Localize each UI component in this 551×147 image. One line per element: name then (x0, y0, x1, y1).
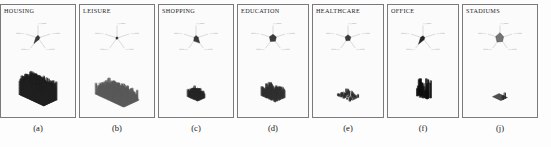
panel-row: HOUSINGLEISURESHOPPINGEDUCATIONHEALTHCAR… (0, 4, 551, 118)
panel-title: OFFICE (391, 7, 414, 14)
subfigure-caption: (f) (387, 120, 459, 142)
bar3d-plot (388, 57, 458, 115)
bar3d-plot (80, 57, 154, 115)
radar-chart (388, 17, 458, 59)
figure-container: HOUSINGLEISURESHOPPINGEDUCATIONHEALTHCAR… (0, 0, 551, 147)
panel-shopping: SHOPPING (158, 4, 234, 118)
caption-row: (a)(b)(c)(d)(e)(f)(j) (0, 120, 551, 142)
bar3d-plot (313, 57, 383, 115)
panel-title: EDUCATION (241, 7, 280, 14)
panel-leisure: LEISURE (79, 4, 155, 118)
bar3d-plot (159, 57, 233, 115)
radar-chart (159, 17, 233, 59)
bar3d-plot (238, 57, 308, 115)
panel-education: EDUCATION (237, 4, 309, 118)
subfigure-caption: (a) (0, 120, 76, 142)
subfigure-caption: (e) (312, 120, 384, 142)
panel-title: HOUSING (4, 7, 34, 14)
radar-chart (463, 17, 537, 59)
panel-title: LEISURE (83, 7, 111, 14)
bar3d-plot (463, 57, 537, 115)
panel-title: SHOPPING (162, 7, 195, 14)
radar-chart (313, 17, 383, 59)
panel-title: HEALTHCARE (316, 7, 360, 14)
radar-chart (238, 17, 308, 59)
subfigure-caption: (b) (79, 120, 155, 142)
panel-healthcare: HEALTHCARE (312, 4, 384, 118)
panel-stadiums: STADIUMS (462, 4, 538, 118)
panel-office: OFFICE (387, 4, 459, 118)
radar-chart (80, 17, 154, 59)
panel-housing: HOUSING (0, 4, 76, 118)
panel-title: STADIUMS (466, 7, 500, 14)
subfigure-caption: (d) (237, 120, 309, 142)
subfigure-caption: (j) (462, 120, 538, 142)
bar3d-plot (1, 57, 75, 115)
radar-chart (1, 17, 75, 59)
subfigure-caption: (c) (158, 120, 234, 142)
